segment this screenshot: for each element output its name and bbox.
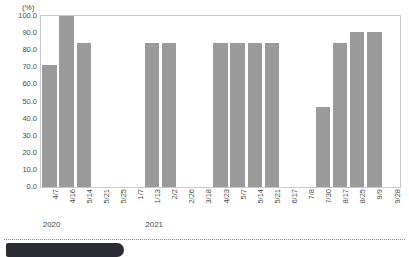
y-axis-tick-label: 0.0: [27, 183, 37, 191]
bar-slot: [144, 16, 161, 187]
x-axis-tick-label: 8/25: [359, 189, 367, 205]
bar: [59, 16, 73, 187]
bar-slot: [126, 16, 143, 187]
x-axis-tick-label: 4/7: [52, 189, 60, 200]
x-axis-tick-label: 2/26: [188, 189, 196, 205]
y-axis-tick-label: 20.0: [22, 149, 37, 157]
bar-slot: [332, 16, 349, 187]
x-axis-tick-label: 5/25: [120, 189, 128, 205]
y-axis-tick-label: 60.0: [22, 81, 37, 89]
bar-slot: [297, 16, 314, 187]
y-axis-tick-label: 10.0: [22, 166, 37, 174]
x-axis-tick-label: 5/14: [257, 189, 265, 205]
footer-banner-chip: [6, 243, 124, 257]
x-axis-tick-label: 7/30: [325, 189, 333, 205]
bar: [42, 65, 56, 187]
bar-slot: [178, 16, 195, 187]
x-axis-tick-label: 1/7: [137, 189, 145, 200]
bar-slot: [58, 16, 75, 187]
x-axis-tick-label: 9/28: [394, 189, 402, 205]
x-axis-tick-label: 4/23: [223, 189, 231, 205]
x-axis-tick-label: 2/2: [171, 189, 179, 200]
bar-slot: [212, 16, 229, 187]
bar-slot: [195, 16, 212, 187]
bar-slot: [109, 16, 126, 187]
x-axis-tick-label: 5/14: [86, 189, 94, 205]
y-axis: 0.010.020.030.040.050.060.070.080.090.01…: [0, 15, 40, 188]
x-axis-year-label: 2021: [145, 221, 163, 229]
x-axis-tick-label: 5/21: [103, 189, 111, 205]
x-axis-tick-label: 5/21: [274, 189, 282, 205]
y-axis-tick-label: 30.0: [22, 132, 37, 140]
bar: [265, 43, 279, 187]
bar: [248, 43, 262, 187]
bar: [213, 43, 227, 187]
footer-dotted-separator: [4, 239, 405, 240]
bar-slot: [229, 16, 246, 187]
bar-slot: [92, 16, 109, 187]
x-axis-tick-label: 3/18: [205, 189, 213, 205]
bar-slot: [41, 16, 58, 187]
bar-slot: [315, 16, 332, 187]
y-axis-tick-label: 80.0: [22, 46, 37, 54]
x-axis-tick-label: 6/17: [291, 189, 299, 205]
y-axis-tick-label: 90.0: [22, 29, 37, 37]
x-axis-tick-label: 7/8: [308, 189, 316, 200]
bar-slot: [280, 16, 297, 187]
x-axis-tick-label: 8/17: [342, 189, 350, 205]
bar-slot: [383, 16, 400, 187]
x-axis-year-label: 2020: [43, 221, 61, 229]
y-axis-tick-label: 70.0: [22, 64, 37, 72]
y-axis-tick-label: 50.0: [22, 98, 37, 106]
bar: [367, 32, 381, 187]
x-axis: 4/74/165/145/215/251/71/132/22/263/184/2…: [41, 189, 400, 221]
y-axis-tick-label: 40.0: [22, 115, 37, 123]
x-axis-tick-label: 5/7: [240, 189, 248, 200]
x-axis-year-groups: 20202021: [41, 221, 400, 233]
bar: [230, 43, 244, 187]
bar-slot: [161, 16, 178, 187]
x-axis-tick-label: 4/16: [69, 189, 77, 205]
bar: [350, 32, 364, 187]
bar: [77, 43, 91, 187]
bar: [316, 107, 330, 187]
bar-slot: [75, 16, 92, 187]
y-axis-tick-label: 100.0: [18, 12, 37, 20]
bars-layer: [41, 16, 400, 187]
bar: [145, 43, 159, 187]
bar-slot: [366, 16, 383, 187]
x-axis-tick-label: 9/9: [376, 189, 384, 200]
bar: [333, 43, 347, 187]
bar-slot: [263, 16, 280, 187]
bar-slot: [349, 16, 366, 187]
bar-slot: [246, 16, 263, 187]
x-axis-tick-label: 1/13: [154, 189, 162, 205]
bar: [162, 43, 176, 187]
